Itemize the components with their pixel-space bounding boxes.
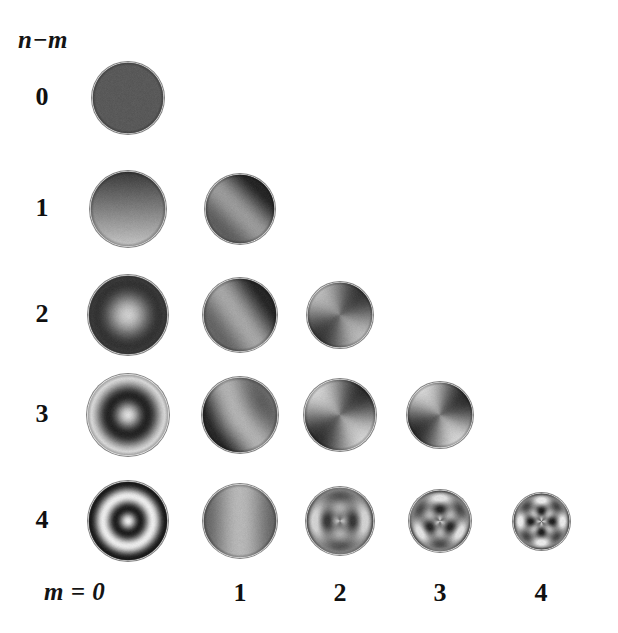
row-tick-4: 4 <box>25 505 59 535</box>
pupil-n2-m1 <box>205 174 275 244</box>
pupil-n4-m2 <box>307 282 373 348</box>
pupil-n6-m3 <box>407 382 473 448</box>
pupil-n7-m3 <box>409 490 471 552</box>
pupil-n5-m2 <box>304 379 376 451</box>
column-tick-2: 2 <box>323 578 357 608</box>
pupil-n1-m0 <box>90 171 166 247</box>
pupil-n2-m0 <box>88 275 168 355</box>
pupil-n3-m0 <box>87 374 169 456</box>
zernike-pyramid-figure: n−m m = 0 01234 1234 <box>0 0 618 633</box>
column-tick-3: 3 <box>423 578 457 608</box>
pupil-n4-m0 <box>88 481 168 561</box>
pupil-n3-m1 <box>203 278 277 352</box>
row-tick-0: 0 <box>25 82 59 112</box>
row-axis-title: n−m <box>18 26 68 54</box>
pupil-n0-m0 <box>92 62 164 134</box>
pupil-n4-m1 <box>202 377 278 453</box>
column-tick-4: 4 <box>524 578 558 608</box>
row-tick-2: 2 <box>25 299 59 329</box>
row-tick-1: 1 <box>25 193 59 223</box>
pupil-n6-m2 <box>306 487 374 555</box>
column-tick-1: 1 <box>223 578 257 608</box>
column-axis-title: m = 0 <box>44 578 105 606</box>
pupil-n8-m4 <box>513 493 570 550</box>
row-tick-3: 3 <box>25 399 59 429</box>
pupil-n5-m1 <box>203 484 277 558</box>
